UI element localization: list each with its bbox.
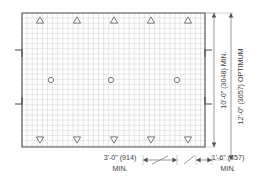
technical-drawing-canvas: 10'-0" (3048) MIN. 12'-0" (3657) OPTIMUM…	[0, 0, 267, 182]
post-circle	[174, 77, 179, 82]
dimension-label-height-optimum: 12'-0" (3657) OPTIMUM	[236, 48, 245, 124]
dimension-qualifier-spacing-1ft6: MIN.	[221, 164, 236, 173]
dimension-qualifier-spacing-3ft: MIN.	[113, 164, 128, 173]
post-circle	[108, 77, 113, 82]
post-circle	[48, 77, 53, 82]
dimension-label-spacing-3ft: 3'-0" (914)	[104, 153, 137, 162]
dimension-label-spacing-1ft6: 1'-6" (457)	[212, 153, 245, 162]
dimension-label-height-minimum: 10'-0" (3048) MIN.	[219, 51, 228, 108]
